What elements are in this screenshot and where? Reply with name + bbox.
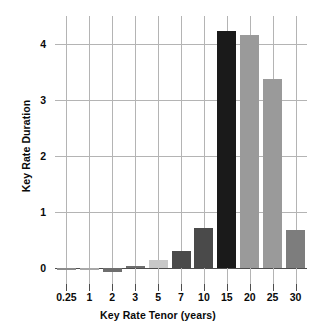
x-tick-label: 3 xyxy=(132,292,138,304)
bar xyxy=(240,35,259,268)
bar xyxy=(194,228,213,268)
bar xyxy=(263,79,282,268)
x-tick-mark xyxy=(296,284,297,291)
bar xyxy=(217,31,236,268)
x-tick-label: 2 xyxy=(109,292,115,304)
bar xyxy=(149,260,168,268)
x-tick-label: 20 xyxy=(244,292,256,304)
x-tick-mark xyxy=(135,284,136,291)
gridline-vertical xyxy=(181,16,182,284)
gridline-vertical xyxy=(135,16,136,284)
plot-area xyxy=(55,16,307,284)
x-tick-mark xyxy=(89,284,90,291)
x-tick-mark xyxy=(158,284,159,291)
x-tick-label: 15 xyxy=(221,292,233,304)
x-tick-mark xyxy=(181,284,182,291)
x-tick-label: 0.25 xyxy=(56,292,76,304)
gridline-vertical xyxy=(66,16,67,284)
x-tick-mark xyxy=(227,284,228,291)
x-tick-mark xyxy=(250,284,251,291)
bar xyxy=(57,268,76,270)
y-tick-label: 0 xyxy=(26,263,46,274)
y-tick-label: 4 xyxy=(26,39,46,50)
key-rate-duration-bar-chart: Key Rate Duration 01234 0.25123571015202… xyxy=(0,0,316,332)
y-axis-tick-labels: 01234 xyxy=(26,0,46,332)
x-tick-label: 30 xyxy=(290,292,302,304)
gridline-vertical xyxy=(158,16,159,284)
x-tick-label: 7 xyxy=(178,292,184,304)
bar xyxy=(172,251,191,268)
gridline-vertical xyxy=(112,16,113,284)
x-tick-label: 25 xyxy=(267,292,279,304)
x-tick-mark xyxy=(273,284,274,291)
x-axis-tick-labels: 0.25123571015202530 xyxy=(55,292,307,308)
y-tick-label: 1 xyxy=(26,207,46,218)
x-axis-title: Key Rate Tenor (years) xyxy=(0,309,316,321)
x-tick-mark xyxy=(204,284,205,291)
x-tick-label: 1 xyxy=(86,292,92,304)
x-tick-label: 5 xyxy=(155,292,161,304)
bar xyxy=(103,268,122,272)
x-tick-mark xyxy=(66,284,67,291)
y-tick-label: 2 xyxy=(26,151,46,162)
bar xyxy=(80,268,99,270)
gridline-vertical xyxy=(89,16,90,284)
bar xyxy=(126,266,145,268)
x-tick-label: 10 xyxy=(198,292,210,304)
bar xyxy=(286,230,305,268)
y-tick-label: 3 xyxy=(26,95,46,106)
x-tick-mark xyxy=(112,284,113,291)
